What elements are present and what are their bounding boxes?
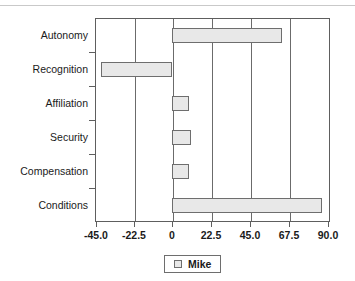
bar-security (172, 130, 191, 145)
x-axis-ticklabel-22.5: 22.5 (191, 229, 231, 241)
bar-series-mike (95, 18, 330, 222)
x-axis-tick-22.5 (211, 222, 212, 227)
x-axis-tick-67.5 (289, 222, 290, 227)
bar-conditions (172, 198, 322, 213)
y-axis-label-recognition: Recognition (33, 62, 88, 76)
legend-label-mike: Mike (188, 258, 211, 270)
x-axis-ticklabel-45: 45.0 (230, 229, 270, 241)
bar-affiliation (172, 96, 189, 111)
y-axis-label-conditions: Conditions (38, 198, 88, 212)
bar-chart-figure: Autonomy Recognition Affiliation Securit… (0, 0, 355, 281)
x-axis-tick-45 (250, 222, 251, 227)
y-axis-label-affiliation: Affiliation (46, 96, 88, 110)
y-axis-label-compensation: Compensation (20, 164, 88, 178)
x-axis-ticklabel-90: 90.0 (308, 229, 348, 241)
legend-swatch-mike (174, 260, 182, 268)
x-axis-ticklabel--45: -45.0 (76, 229, 116, 241)
x-axis-tick--45 (96, 222, 97, 227)
bar-compensation (172, 164, 189, 179)
bar-recognition (101, 62, 172, 77)
x-axis-ticklabel--22.5: -22.5 (114, 229, 154, 241)
chart-legend: Mike (164, 255, 221, 273)
x-axis-tick-0 (172, 222, 173, 227)
page-top-rule (0, 5, 355, 6)
y-axis-label-autonomy: Autonomy (41, 28, 88, 42)
x-axis-ticklabel-67.5: 67.5 (269, 229, 309, 241)
y-axis-label-security: Security (50, 130, 88, 144)
y-axis-labels: Autonomy Recognition Affiliation Securit… (0, 18, 88, 222)
x-axis-tick-90 (328, 222, 329, 227)
x-axis-tick--22.5 (134, 222, 135, 227)
bar-autonomy (172, 28, 282, 43)
x-axis-ticklabel-0: 0 (152, 229, 192, 241)
